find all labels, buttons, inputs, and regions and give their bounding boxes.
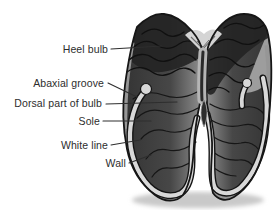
label-abaxial-groove: Abaxial groove xyxy=(33,77,104,90)
cleft-dark-strip xyxy=(202,52,203,100)
abaxial-groove-right xyxy=(243,79,252,88)
claw-right xyxy=(206,14,271,200)
interdigital-cleft xyxy=(201,52,207,127)
hoof-sole-diagram: Heel bulb Abaxial groove Dorsal part of … xyxy=(0,0,280,212)
ground-shadow xyxy=(132,192,264,208)
label-dorsal-part-of-bulb: Dorsal part of bulb xyxy=(14,97,102,110)
label-heel-bulb: Heel bulb xyxy=(63,43,108,56)
label-wall: Wall xyxy=(106,157,126,170)
label-white-line: White line xyxy=(61,139,108,152)
label-sole: Sole xyxy=(79,115,100,128)
abaxial-groove-left xyxy=(141,84,152,95)
